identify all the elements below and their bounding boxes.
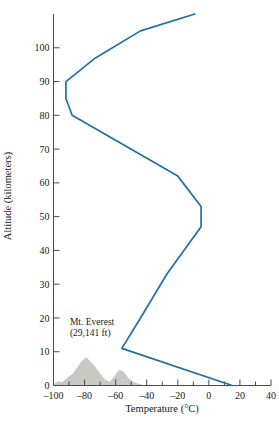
y-axis-tick-labels: 0102030405060708090100: [35, 42, 50, 391]
mountain-silhouette: [54, 357, 143, 385]
temperature-profile-figure: 0102030405060708090100 Altitude (kilomet…: [0, 0, 279, 422]
annotation-group: Mt. Everest (29,141 ft): [70, 317, 115, 339]
y-tick-label: 80: [40, 110, 50, 121]
mount-everest-label-line1: Mt. Everest: [70, 317, 115, 327]
y-tick-label: 90: [40, 76, 50, 87]
y-axis-ticks: [54, 48, 60, 386]
y-axis: 0102030405060708090100 Altitude (kilomet…: [2, 14, 60, 391]
x-tick-label: –80: [76, 390, 92, 401]
x-tick-label: –40: [138, 390, 154, 401]
mount-everest-label-line2: (29,141 ft): [70, 328, 111, 339]
y-tick-label: 40: [40, 245, 50, 256]
chart-canvas: 0102030405060708090100 Altitude (kilomet…: [0, 0, 279, 422]
x-tick-label: –20: [169, 390, 185, 401]
x-axis-title: Temperature (°C): [125, 403, 199, 415]
y-tick-label: 100: [35, 42, 50, 53]
x-tick-label: 40: [266, 390, 276, 401]
y-tick-label: 50: [40, 211, 50, 222]
x-tick-label: –100: [43, 390, 64, 401]
y-tick-label: 60: [40, 177, 50, 188]
y-tick-label: 10: [40, 346, 50, 357]
y-tick-label: 20: [40, 313, 50, 324]
y-axis-title: Altitude (kilometers): [2, 151, 14, 240]
y-tick-label: 30: [40, 279, 50, 290]
x-tick-label: 0: [206, 390, 211, 401]
y-tick-label: 70: [40, 144, 50, 155]
x-tick-label: –60: [107, 390, 123, 401]
terrain-silhouette: [54, 357, 143, 385]
x-axis-tick-labels: –100–80–60–40–2002040: [43, 390, 277, 401]
x-tick-label: 20: [235, 390, 245, 401]
